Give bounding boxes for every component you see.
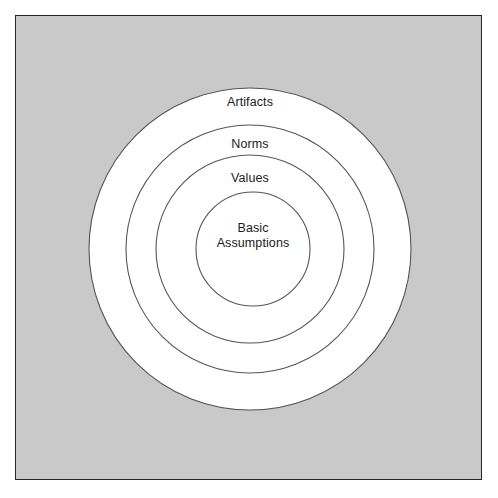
diagram-frame: Artifacts Norms Values Basic Assumptions: [15, 15, 482, 480]
page-root: Artifacts Norms Values Basic Assumptions: [0, 0, 498, 498]
concentric-rings-graphic: [16, 16, 483, 481]
ring-circle-basic-assumptions[interactable]: [196, 192, 310, 306]
concentric-diagram: Artifacts Norms Values Basic Assumptions: [16, 16, 481, 479]
